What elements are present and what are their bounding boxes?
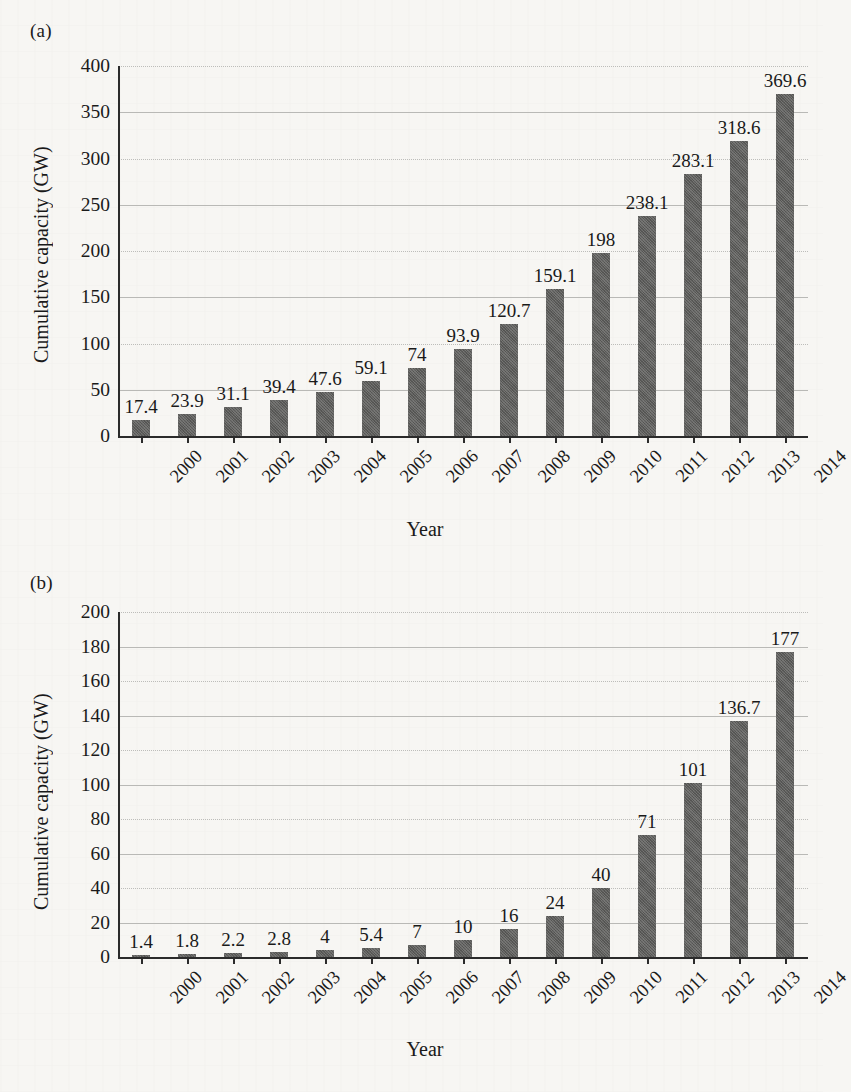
x-tick-label: 2014: [810, 446, 851, 487]
x-tick-label: 2010: [626, 967, 667, 1008]
x-tick-label: 2003: [304, 967, 345, 1008]
x-tick-mark: [601, 957, 603, 964]
x-tick-mark: [279, 957, 281, 964]
x-tick-label: 2007: [488, 446, 529, 487]
bar-value-label: 93.9: [423, 326, 503, 345]
y-tick-label: 120: [46, 740, 110, 760]
gridline: [118, 819, 808, 820]
bar: [224, 407, 242, 436]
x-tick-mark: [785, 436, 787, 443]
bar: [316, 392, 334, 436]
x-tick-mark: [555, 957, 557, 964]
bar: [178, 414, 196, 436]
bar-value-label: 283.1: [653, 151, 733, 170]
x-tick-mark: [141, 957, 143, 964]
bar: [408, 945, 426, 957]
x-tick-mark: [233, 957, 235, 964]
x-tick-mark: [141, 436, 143, 443]
y-tick-label: 140: [46, 706, 110, 726]
x-tick-label: 2012: [718, 446, 759, 487]
y-tick-label: 150: [46, 287, 110, 307]
x-tick-mark: [463, 957, 465, 964]
x-tick-mark: [647, 436, 649, 443]
gridline: [118, 785, 808, 786]
x-tick-mark: [739, 957, 741, 964]
bar-value-label: 136.7: [699, 698, 779, 717]
x-tick-mark: [325, 957, 327, 964]
x-tick-label: 2001: [212, 967, 253, 1008]
x-tick-mark: [693, 957, 695, 964]
y-tick-label: 20: [46, 913, 110, 933]
x-tick-mark: [647, 957, 649, 964]
bar: [546, 289, 564, 436]
bar: [500, 929, 518, 957]
x-tick-mark: [187, 436, 189, 443]
bar-value-label: 238.1: [607, 193, 687, 212]
x-tick-mark: [187, 957, 189, 964]
y-tick-label: 100: [46, 775, 110, 795]
bar-value-label: 369.6: [745, 71, 825, 90]
x-tick-label: 2001: [212, 446, 253, 487]
x-tick-label: 2013: [764, 446, 805, 487]
y-tick-label: 160: [46, 671, 110, 691]
x-tick-mark: [785, 957, 787, 964]
x-tick-mark: [509, 436, 511, 443]
bar: [638, 216, 656, 436]
panel-b: (b) Cumulative capacity (GW) 1.41.82.22.…: [0, 560, 823, 1092]
x-tick-label: 2005: [396, 967, 437, 1008]
x-tick-label: 2009: [580, 967, 621, 1008]
bar: [546, 916, 564, 957]
gridline: [118, 888, 808, 889]
y-tick-label: 100: [46, 334, 110, 354]
x-tick-mark: [739, 436, 741, 443]
bar-value-label: 40: [561, 865, 641, 884]
x-tick-label: 2000: [166, 967, 207, 1008]
bar-value-label: 71: [607, 812, 687, 831]
x-tick-mark: [417, 436, 419, 443]
bar: [592, 888, 610, 957]
bar: [638, 835, 656, 957]
x-tick-label: 2009: [580, 446, 621, 487]
panel-b-x-axis-label: Year: [365, 1038, 485, 1061]
panel-a-x-axis-label: Year: [365, 518, 485, 541]
gridline: [118, 854, 808, 855]
bar: [592, 253, 610, 436]
panel-b-label: (b): [30, 572, 53, 594]
y-tick-label: 300: [46, 149, 110, 169]
y-axis-line: [118, 66, 120, 436]
x-tick-label: 2011: [672, 446, 713, 487]
x-tick-label: 2002: [258, 446, 299, 487]
gridline: [118, 251, 808, 252]
bar-value-label: 177: [745, 629, 825, 648]
y-tick-label: 200: [46, 241, 110, 261]
bar: [684, 783, 702, 957]
bar-value-label: 159.1: [515, 266, 595, 285]
bar: [270, 400, 288, 436]
bar-value-label: 74: [377, 345, 457, 364]
x-tick-label: 2006: [442, 446, 483, 487]
panel-b-y-axis-label: Cumulative capacity (GW): [30, 652, 53, 952]
x-tick-label: 2011: [672, 967, 713, 1008]
x-tick-label: 2014: [810, 967, 851, 1008]
y-axis-line: [118, 612, 120, 957]
x-tick-label: 2000: [166, 446, 207, 487]
bar: [730, 721, 748, 957]
bar: [500, 324, 518, 436]
x-tick-label: 2003: [304, 446, 345, 487]
x-tick-mark: [509, 957, 511, 964]
y-tick-label: 0: [46, 947, 110, 967]
bar: [730, 141, 748, 436]
y-tick-label: 80: [46, 809, 110, 829]
x-tick-mark: [463, 436, 465, 443]
bar-value-label: 101: [653, 760, 733, 779]
bar: [362, 948, 380, 957]
bar: [316, 950, 334, 957]
gridline: [118, 750, 808, 751]
x-tick-label: 2012: [718, 967, 759, 1008]
x-tick-mark: [371, 436, 373, 443]
panel-b-plot-area: 1.41.82.22.845.471016244071101136.7177: [118, 612, 808, 957]
bar: [454, 349, 472, 436]
x-tick-label: 2008: [534, 967, 575, 1008]
x-tick-mark: [417, 957, 419, 964]
y-tick-label: 0: [46, 426, 110, 446]
